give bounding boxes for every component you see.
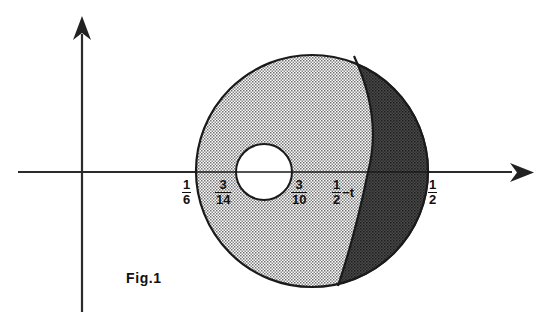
minus-t-suffix: −t (341, 186, 354, 199)
fraction-three-fourteenths: 3 14 (215, 178, 231, 206)
figure-caption: Fig.1 (126, 270, 162, 286)
fraction-one-half: 1 2 (428, 178, 437, 206)
axis-label-one-sixth: 1 6 (182, 178, 191, 206)
axis-label-three-tenths: 3 10 (291, 178, 307, 206)
figure-canvas: 1 6 3 14 3 10 1 2 −t 1 2 Fig.1 (0, 0, 546, 320)
axis-label-three-fourteenths: 3 14 (215, 178, 231, 206)
fraction-numerator: 3 (291, 178, 307, 192)
axis-label-one-half: 1 2 (428, 178, 437, 206)
fraction-denominator: 2 (332, 192, 341, 207)
fraction-one-half: 1 2 (332, 178, 341, 206)
fraction-one-sixth: 1 6 (182, 178, 191, 206)
fraction-denominator: 2 (428, 192, 437, 207)
fraction-denominator: 6 (182, 192, 191, 207)
fraction-numerator: 1 (332, 178, 341, 192)
fraction-numerator: 1 (182, 178, 191, 192)
axis-label-half-minus-t: 1 2 −t (332, 178, 354, 206)
y-axis (73, 16, 91, 312)
figure-graphic (0, 0, 546, 320)
fraction-denominator: 10 (291, 192, 307, 207)
fraction-three-tenths: 3 10 (291, 178, 307, 206)
fraction-numerator: 3 (215, 178, 231, 192)
x-axis-arrow-icon (510, 163, 534, 182)
fraction-numerator: 1 (428, 178, 437, 192)
fraction-denominator: 14 (215, 192, 231, 207)
